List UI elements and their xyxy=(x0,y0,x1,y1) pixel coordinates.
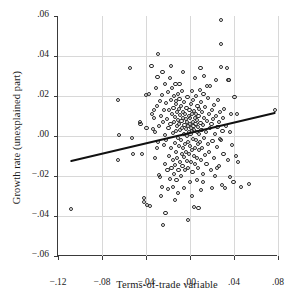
data-point xyxy=(162,143,166,147)
data-point xyxy=(179,104,183,108)
y-tick xyxy=(54,16,58,17)
y-tick xyxy=(54,96,58,97)
data-point xyxy=(176,168,180,172)
data-point xyxy=(209,168,213,172)
data-point xyxy=(157,124,161,128)
gridline-horizontal xyxy=(58,56,278,57)
data-point xyxy=(177,97,181,101)
data-point xyxy=(164,138,168,142)
data-point xyxy=(231,180,235,184)
y-tick-label: −.06 xyxy=(19,249,49,259)
data-point xyxy=(207,112,211,116)
data-point xyxy=(171,106,175,110)
data-point xyxy=(216,98,220,102)
data-point xyxy=(162,108,166,112)
data-point xyxy=(217,120,221,124)
data-point xyxy=(176,191,180,195)
data-point xyxy=(159,194,163,198)
data-point xyxy=(210,139,214,143)
data-point xyxy=(148,204,152,208)
data-point xyxy=(168,76,172,80)
data-point xyxy=(116,98,120,102)
data-point xyxy=(188,180,192,184)
data-point xyxy=(210,108,214,112)
data-point xyxy=(226,158,230,162)
y-tick-label: −.02 xyxy=(19,169,49,179)
data-point xyxy=(215,145,219,149)
data-point xyxy=(171,158,175,162)
y-tick-label: −.04 xyxy=(19,209,49,219)
x-tick xyxy=(278,256,279,260)
data-point xyxy=(174,150,178,154)
data-point xyxy=(158,99,162,103)
data-point xyxy=(138,122,142,126)
data-point xyxy=(221,152,225,156)
data-point xyxy=(182,100,186,104)
data-point xyxy=(201,172,205,176)
data-point xyxy=(130,136,134,140)
data-point xyxy=(201,92,205,96)
scatter-plot-figure: Growth rate (unexplained part) −.12−.08−… xyxy=(0,0,297,303)
data-point xyxy=(163,211,167,215)
data-point xyxy=(201,123,205,127)
data-point xyxy=(156,52,160,56)
data-point xyxy=(181,70,185,74)
data-point xyxy=(159,114,163,118)
data-point xyxy=(158,175,162,179)
data-point xyxy=(190,89,194,93)
data-point xyxy=(199,188,203,192)
data-point xyxy=(153,156,157,160)
data-point xyxy=(202,74,206,78)
data-point xyxy=(171,185,175,189)
x-axis-title: Terms-of-trade variable xyxy=(57,279,277,290)
data-point xyxy=(222,107,226,111)
data-point xyxy=(163,162,167,166)
data-point xyxy=(207,150,211,154)
data-point xyxy=(203,153,207,157)
data-point xyxy=(273,108,277,112)
data-point xyxy=(236,160,240,164)
data-point xyxy=(185,95,189,99)
data-point xyxy=(212,156,216,160)
data-point xyxy=(213,132,217,136)
data-point xyxy=(195,178,199,182)
data-point xyxy=(169,146,173,150)
data-point xyxy=(164,101,168,105)
data-point xyxy=(212,103,216,107)
data-point xyxy=(155,104,159,108)
data-point xyxy=(180,164,184,168)
data-point xyxy=(187,152,191,156)
gridline-horizontal xyxy=(58,96,278,97)
data-point xyxy=(206,142,210,146)
data-point xyxy=(173,198,177,202)
data-point xyxy=(200,146,204,150)
data-point xyxy=(210,186,214,190)
data-point xyxy=(160,185,164,189)
data-point xyxy=(174,178,178,182)
data-point xyxy=(165,117,169,121)
data-point xyxy=(235,112,239,116)
data-point xyxy=(156,140,160,144)
data-point xyxy=(169,64,173,68)
data-point xyxy=(209,122,213,126)
gridline-horizontal xyxy=(58,136,278,137)
data-point xyxy=(140,152,144,156)
data-point xyxy=(204,162,208,166)
data-point xyxy=(196,114,200,118)
data-point xyxy=(199,100,203,104)
data-point xyxy=(166,90,170,94)
data-point xyxy=(173,163,177,167)
x-tick xyxy=(190,256,191,260)
data-point xyxy=(200,110,204,114)
data-point xyxy=(152,116,156,120)
data-point xyxy=(194,94,198,98)
data-point xyxy=(234,154,238,158)
data-point xyxy=(229,112,233,116)
data-point xyxy=(206,96,210,100)
x-tick xyxy=(234,256,235,260)
data-point xyxy=(204,130,208,134)
data-point xyxy=(147,92,151,96)
data-point xyxy=(198,66,202,70)
data-point xyxy=(190,194,194,198)
data-point xyxy=(176,92,180,96)
